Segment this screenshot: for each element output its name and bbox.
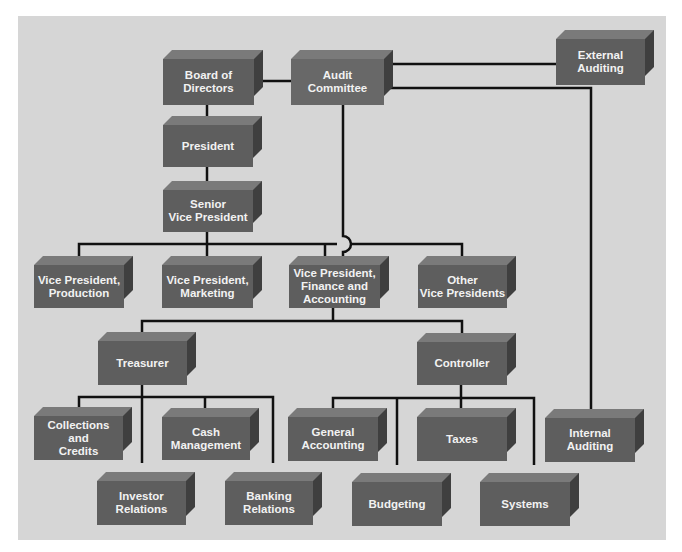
node-vp-marketing: Vice President, Marketing [162, 256, 262, 308]
node-label: Systems [480, 482, 570, 526]
node-president: President [163, 116, 262, 167]
node-label: Senior Vice President [163, 190, 253, 232]
node-label: Budgeting [352, 482, 442, 526]
node-collections-credits: Collections and Credits [34, 407, 132, 460]
node-audit-committee: Audit Committee [291, 50, 393, 105]
node-label: External Auditing [556, 39, 645, 85]
node-label: Collections and Credits [34, 416, 123, 460]
node-label: Banking Relations [225, 481, 313, 525]
node-label: Vice President, Production [34, 265, 124, 308]
node-senior-vice-president: Senior Vice President [163, 181, 262, 232]
node-treasurer: Treasurer [98, 332, 196, 385]
node-taxes: Taxes [417, 408, 516, 461]
node-vp-production: Vice President, Production [34, 256, 133, 308]
node-internal-auditing: Internal Auditing [545, 409, 644, 462]
node-label: Vice President, Marketing [162, 265, 253, 308]
node-cash-management: Cash Management [162, 408, 259, 460]
node-label: Internal Auditing [545, 418, 635, 462]
node-systems: Systems [480, 473, 579, 526]
node-label: General Accounting [288, 417, 378, 461]
node-external-auditing: External Auditing [556, 30, 654, 85]
node-label: Investor Relations [97, 481, 186, 525]
node-label: Other Vice Presidents [418, 265, 507, 308]
node-label: Audit Committee [291, 59, 384, 105]
node-label: Board of Directors [163, 59, 254, 105]
node-banking-relations: Banking Relations [225, 472, 322, 525]
node-label: Cash Management [162, 417, 250, 460]
node-board-of-directors: Board of Directors [163, 50, 263, 105]
node-label: Controller [417, 342, 507, 385]
node-budgeting: Budgeting [352, 473, 451, 526]
node-vp-finance-accounting: Vice President, Finance and Accounting [289, 256, 389, 308]
node-other-vice-presidents: Other Vice Presidents [418, 256, 516, 308]
node-label: President [163, 125, 253, 167]
node-controller: Controller [417, 333, 516, 385]
node-label: Vice President, Finance and Accounting [289, 265, 380, 308]
node-general-accounting: General Accounting [288, 408, 387, 461]
node-label: Taxes [417, 417, 507, 461]
node-label: Treasurer [98, 341, 187, 385]
node-investor-relations: Investor Relations [97, 472, 195, 525]
